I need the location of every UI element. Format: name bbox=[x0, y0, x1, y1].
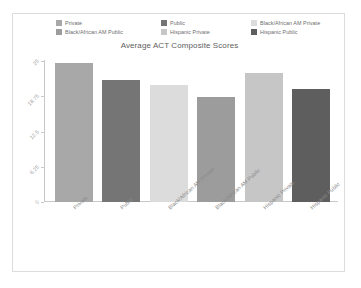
y-axis-tick-label: 25 bbox=[8, 58, 41, 91]
y-axis-tick-label: 12.5 bbox=[8, 128, 41, 161]
y-axis-line bbox=[44, 60, 45, 202]
y-axis-tick-mark bbox=[41, 132, 44, 133]
y-axis-tick-mark bbox=[41, 202, 44, 203]
bar[interactable] bbox=[150, 85, 188, 202]
bar[interactable] bbox=[245, 73, 283, 202]
y-axis-tick-label: 6.25 bbox=[8, 164, 41, 197]
y-axis-tick-label: 18.75 bbox=[8, 93, 41, 126]
y-axis-tick-mark bbox=[41, 61, 44, 62]
y-axis-tick-mark bbox=[41, 167, 44, 168]
y-axis-tick-mark bbox=[41, 96, 44, 97]
bar[interactable] bbox=[197, 97, 235, 202]
bar[interactable] bbox=[55, 63, 93, 202]
plot-area: 2518.7512.56.250 PrivatePublicBlack/Afri… bbox=[13, 14, 346, 273]
chart-container: Private Public Black/African AM Private … bbox=[12, 13, 345, 272]
bar[interactable] bbox=[292, 89, 330, 202]
y-axis-tick-label: 0 bbox=[8, 199, 41, 232]
bar[interactable] bbox=[102, 80, 140, 202]
